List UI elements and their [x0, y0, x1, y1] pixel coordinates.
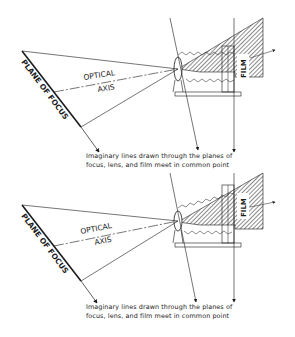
- caption-bottom: Imaginary lines drawn through the planes…: [86, 303, 286, 321]
- bellows-bottom: [184, 231, 232, 234]
- diagram-top: PLANE OF FOCUS OPTICAL AXIS FILM Imagina…: [0, 0, 295, 168]
- camera-focus-diagram-top: PLANE OF FOCUS OPTICAL AXIS FILM: [0, 0, 295, 168]
- axis-label: AXIS: [97, 82, 116, 94]
- plane-of-focus-label: PLANE OF FOCUS: [19, 212, 70, 275]
- diagram-bottom: PLANE OF FOCUS OPTICAL AXIS FILM Imagina…: [0, 167, 295, 335]
- film-label: FILM: [240, 198, 248, 217]
- lens-standard: [173, 80, 183, 92]
- optical-label: OPTICAL: [83, 68, 117, 82]
- ray-top: [22, 51, 178, 69]
- optical-label: OPTICAL: [80, 221, 114, 236]
- plane-of-focus-label: PLANE OF FOCUS: [19, 58, 70, 121]
- caption-line-2: focus, lens, and film meet in common poi…: [86, 312, 286, 321]
- film-label: FILM: [240, 59, 248, 78]
- ray-top: [22, 205, 178, 221]
- light-cone-hatched: [178, 18, 263, 77]
- lens-standard: [173, 230, 183, 243]
- axis-label: AXIS: [94, 235, 113, 247]
- optical-axis: [54, 69, 178, 92]
- optical-axis: [54, 221, 178, 246]
- caption-line-1: Imaginary lines drawn through the planes…: [86, 303, 286, 312]
- camera-base-rail: [175, 92, 241, 96]
- light-cone-hatched: [178, 173, 263, 229]
- bellows-bottom: [186, 79, 234, 82]
- caption-line-1: Imaginary lines drawn through the planes…: [86, 152, 286, 161]
